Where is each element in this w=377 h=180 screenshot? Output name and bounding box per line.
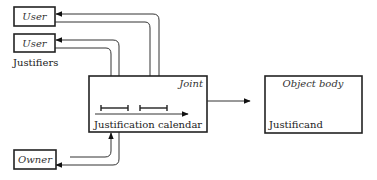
user1-return-wire <box>56 14 159 76</box>
justificand-label: Justificand <box>268 119 323 130</box>
diagram-canvas: User User Justifiers Owner Joint Justifi… <box>0 0 377 180</box>
object-body-box: Object body Justificand <box>265 76 362 133</box>
user-label: User <box>22 38 47 49</box>
user-box: User <box>14 7 55 26</box>
justification-calendar-label: Justification calendar <box>93 119 202 130</box>
user-label: User <box>22 11 47 22</box>
justifiers-label: Justifiers <box>12 57 58 68</box>
joint-title: Joint <box>177 78 204 89</box>
user2-return-wire <box>56 40 119 76</box>
owner-request-wire <box>70 133 111 157</box>
object-body-title: Object body <box>283 78 344 89</box>
joint-box: Joint Justification calendar <box>89 76 207 132</box>
user-box: User <box>14 34 55 52</box>
owner-box: Owner <box>14 150 56 169</box>
owner-return-wire <box>56 131 119 165</box>
owner-label: Owner <box>18 154 53 165</box>
